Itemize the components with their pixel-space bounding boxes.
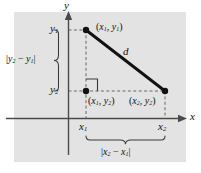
x-tick-x2: x2 bbox=[158, 121, 166, 133]
horizontal-brace bbox=[86, 136, 165, 144]
point-x2-y2 bbox=[162, 88, 168, 94]
point-label-x1-y1: (x1, y1) bbox=[96, 22, 123, 32]
x-tick-x1: x1 bbox=[79, 121, 87, 133]
vertical-brace bbox=[54, 30, 59, 91]
distance-label: d bbox=[123, 46, 129, 57]
x-axis-label: x bbox=[190, 111, 195, 122]
point-x1-y2 bbox=[83, 88, 89, 94]
horizontal-brace-label: |x2 − x1| bbox=[101, 147, 131, 157]
y-axis-label: y bbox=[64, 0, 69, 11]
y-tick-y1: y1 bbox=[50, 23, 58, 35]
y-tick-y2: y2 bbox=[50, 84, 58, 96]
point-x1-y1 bbox=[83, 27, 89, 33]
distance-formula-figure: y x y1 y2 x1 x2 (x1, y1) (x1, y2) (x2, y… bbox=[0, 0, 201, 173]
vertical-brace-label: |y2 − y1| bbox=[6, 54, 36, 64]
point-label-x1-y2: (x1, y2) bbox=[88, 96, 115, 106]
y-axis bbox=[65, 11, 72, 155]
point-label-x2-y2: (x2, y2) bbox=[129, 96, 156, 106]
